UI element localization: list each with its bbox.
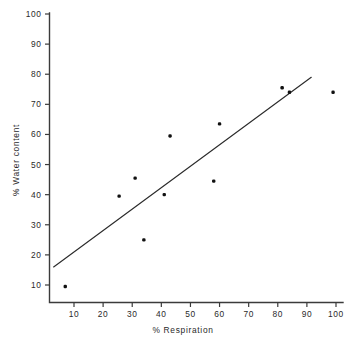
y-tick-label: 20 — [31, 250, 42, 260]
axis-lines — [50, 13, 344, 303]
y-tick-label: 40 — [31, 190, 42, 200]
y-tick-label: 10 — [31, 280, 42, 290]
x-tick-label: 10 — [69, 309, 80, 319]
data-point — [280, 86, 283, 89]
regression-line — [54, 77, 312, 267]
y-tick-label: 50 — [31, 160, 42, 170]
data-point — [288, 91, 291, 94]
data-point — [331, 91, 334, 94]
data-points-group — [64, 86, 335, 288]
x-tick-label: 60 — [214, 309, 225, 319]
y-axis-tick-labels: 102030405060708090100 — [26, 9, 42, 290]
data-point — [168, 134, 171, 137]
data-point — [117, 194, 120, 197]
data-point — [218, 122, 221, 125]
plot-canvas: 102030405060708090100 102030405060708090… — [0, 0, 359, 345]
data-point — [142, 238, 145, 241]
y-tick-label: 100 — [26, 9, 42, 19]
axes-group — [50, 13, 344, 303]
x-tick-label: 90 — [302, 309, 313, 319]
y-tick-label: 60 — [31, 129, 42, 139]
y-tick-label: 70 — [31, 99, 42, 109]
x-tick-label: 20 — [98, 309, 109, 319]
x-tick-label: 80 — [273, 309, 284, 319]
x-tick-label: 50 — [185, 309, 196, 319]
y-tick-label: 90 — [31, 39, 42, 49]
y-axis-label: % Water content — [11, 124, 21, 196]
x-tick-label: 70 — [243, 309, 254, 319]
data-point — [133, 176, 136, 179]
x-tick-label: 30 — [127, 309, 138, 319]
data-point — [212, 179, 215, 182]
y-tick-label: 80 — [31, 69, 42, 79]
data-point — [163, 193, 166, 196]
x-axis-label: % Respiration — [152, 325, 213, 335]
x-tick-label: 100 — [328, 309, 344, 319]
scatter-plot-figure: 102030405060708090100 102030405060708090… — [0, 0, 359, 345]
data-point — [64, 285, 67, 288]
x-axis-tick-labels: 102030405060708090100 — [69, 309, 344, 319]
x-tick-label: 40 — [156, 309, 167, 319]
trend-line-group — [54, 77, 312, 267]
y-tick-label: 30 — [31, 220, 42, 230]
